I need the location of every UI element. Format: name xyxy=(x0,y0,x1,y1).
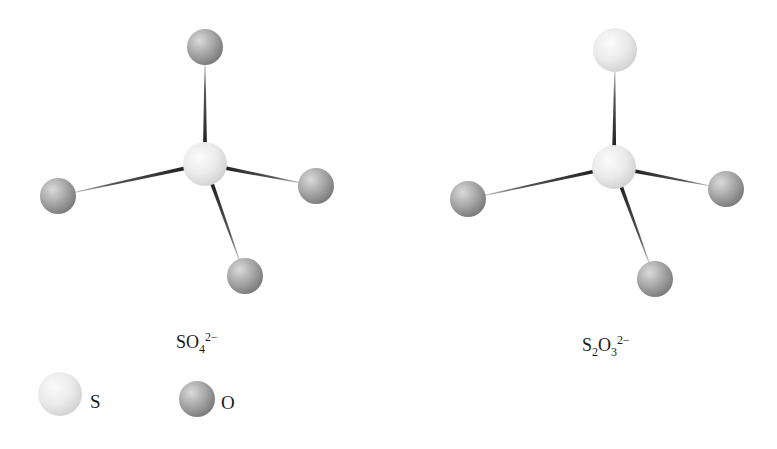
diagram-canvas xyxy=(0,0,777,449)
formula-part-sub: 4 xyxy=(199,342,205,356)
formula-part-sup: 2− xyxy=(617,333,630,347)
bond-line xyxy=(210,182,240,261)
legend-oxygen-ball-icon xyxy=(179,381,215,417)
formula-label-thiosulfate: S2O32− xyxy=(582,336,630,354)
sulfur-center-atom-thiosulfate xyxy=(592,145,636,189)
formula-part-sub: 3 xyxy=(611,345,617,359)
oxygen-atom-thiosulfate xyxy=(708,171,744,207)
sulfur-atom-thiosulfate xyxy=(593,28,637,72)
molecular-structure-diagram: SO42− S2O32− S O xyxy=(0,0,777,449)
formula-part-normal: SO xyxy=(176,332,199,352)
formula-label-sulfate: SO42− xyxy=(176,333,218,351)
legend-label-oxygen: O xyxy=(221,393,235,412)
legend-balls xyxy=(38,372,215,417)
oxygen-atom-thiosulfate xyxy=(637,261,673,297)
formula-part-normal: O xyxy=(598,335,611,355)
oxygen-atom-sulfate xyxy=(187,29,223,65)
bond-line xyxy=(612,70,616,147)
formula-part-normal: S xyxy=(582,335,592,355)
oxygen-atom-sulfate xyxy=(298,168,334,204)
bond-line xyxy=(224,166,300,183)
bond-line xyxy=(633,169,710,186)
formula-part-sup: 2− xyxy=(205,330,218,344)
bond-line xyxy=(619,185,650,264)
legend-label-sulfur: S xyxy=(90,392,101,411)
bond-line xyxy=(484,169,595,196)
formula-part-sub: 2 xyxy=(592,345,598,359)
bond-line xyxy=(203,63,207,144)
oxygen-atom-thiosulfate xyxy=(450,181,486,217)
legend-sulfur-ball-icon xyxy=(38,372,82,416)
atoms-layer xyxy=(40,28,744,297)
oxygen-atom-sulfate xyxy=(40,178,76,214)
sulfur-center-atom-sulfate xyxy=(183,142,227,186)
oxygen-atom-sulfate xyxy=(227,258,263,294)
bond-line xyxy=(74,166,186,193)
